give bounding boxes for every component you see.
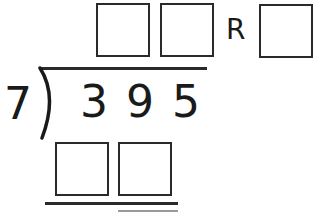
dividend: 3 9 5 <box>80 80 202 124</box>
divisor: 7 <box>4 82 32 126</box>
work-digit-box-2[interactable] <box>118 142 172 196</box>
subtraction-line <box>45 202 178 205</box>
division-bar <box>40 67 207 70</box>
partial-line <box>118 210 178 212</box>
division-bracket-icon <box>36 66 60 140</box>
work-digit-box-1[interactable] <box>55 142 109 196</box>
quotient-digit-box-1[interactable] <box>96 3 150 57</box>
remainder-box[interactable] <box>259 4 313 58</box>
quotient-digit-box-2[interactable] <box>160 3 214 57</box>
remainder-label: R <box>226 16 245 44</box>
